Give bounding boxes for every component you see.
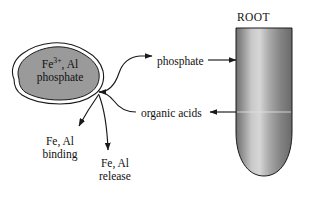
organic-acids-flow-label: organic acids — [141, 107, 202, 120]
blob-label-phosphate: phosphate — [37, 71, 84, 83]
diagram-canvas: Fe3+, Alphosphate phosphate organic acid… — [0, 0, 315, 201]
release-label: Fe, Alrelease — [84, 157, 146, 183]
blob-label-charge: 3+ — [53, 56, 61, 65]
phosphate-flow-curve — [99, 56, 152, 92]
diagram-vector-layer — [0, 0, 315, 201]
root-label: ROOT — [237, 11, 270, 24]
binding-label-line2: binding — [42, 148, 77, 160]
release-label-line1: Fe, Al — [101, 157, 129, 169]
organic-acids-flow-curve — [99, 92, 136, 112]
release-arrow — [99, 95, 108, 150]
binding-label: Fe, Albinding — [29, 135, 91, 161]
root-body — [236, 28, 292, 176]
phosphate-flow-label: phosphate — [157, 55, 204, 68]
blob-label-fe: Fe — [42, 58, 54, 70]
blob-label: Fe3+, Alphosphate — [22, 58, 98, 84]
blob-label-al: , Al — [62, 58, 79, 70]
binding-arrow — [79, 94, 99, 126]
release-label-line2: release — [99, 170, 131, 182]
binding-label-line1: Fe, Al — [46, 135, 74, 147]
